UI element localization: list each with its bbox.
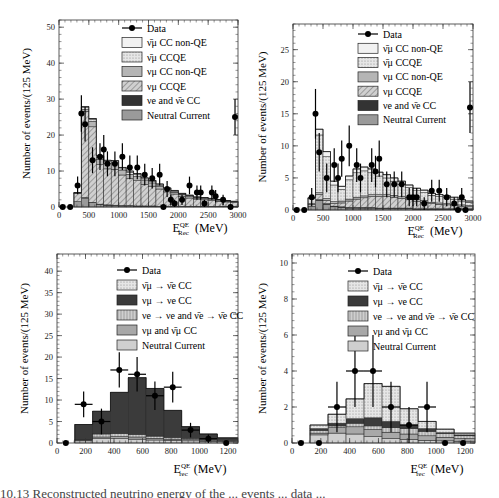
y-tick-label: 15 bbox=[45, 374, 54, 384]
x-axis-label: EQErec (MeV) bbox=[174, 462, 227, 478]
y-tick-label: 10 bbox=[45, 395, 54, 405]
legend-label: Neutral Current bbox=[383, 114, 446, 125]
data-point bbox=[451, 201, 457, 207]
x-tick-label: 200 bbox=[314, 446, 327, 456]
data-point bbox=[220, 197, 226, 203]
data-point bbox=[152, 393, 158, 399]
y-tick-label: 20 bbox=[45, 352, 54, 362]
x-tick-label: 800 bbox=[165, 446, 178, 456]
data-point bbox=[334, 404, 340, 410]
data-point bbox=[316, 149, 322, 155]
data-point bbox=[346, 143, 352, 149]
data-point bbox=[324, 175, 330, 181]
data-point bbox=[127, 164, 133, 170]
data-point bbox=[442, 440, 448, 446]
x-tick-label: 500 bbox=[317, 213, 330, 223]
x-tick-label: 2000 bbox=[405, 213, 422, 223]
panel-top-right: 0500100015002000250030000510152025Dataν̄… bbox=[250, 0, 499, 245]
data-point bbox=[358, 175, 364, 181]
legend: Dataν̄μ CC non-QEν̄μ CCQEνμ CC non-QEνμ … bbox=[358, 29, 446, 126]
x-tick-label: 1000 bbox=[345, 213, 362, 223]
legend-label: νμ CCQE bbox=[147, 81, 186, 92]
x-axis-label: EQErec (MeV) bbox=[411, 462, 464, 478]
data-point bbox=[352, 368, 358, 374]
data-point bbox=[467, 104, 473, 110]
legend-label: Neutral Current bbox=[142, 340, 205, 351]
y-tick-label: 10 bbox=[280, 258, 289, 268]
data-point bbox=[63, 440, 69, 446]
data-point bbox=[172, 200, 178, 206]
data-point bbox=[369, 162, 375, 168]
data-point bbox=[339, 156, 345, 162]
x-tick-label: 2000 bbox=[170, 210, 187, 220]
legend-label: ν̄μ CCQE bbox=[383, 57, 422, 68]
y-tick-label: 20 bbox=[47, 130, 56, 140]
data-point bbox=[78, 111, 84, 117]
legend-swatch bbox=[358, 58, 378, 68]
x-tick-label: 1000 bbox=[428, 446, 445, 456]
data-point bbox=[301, 207, 307, 213]
y-tick-label: 30 bbox=[47, 94, 56, 104]
data-point bbox=[376, 156, 382, 162]
data-point bbox=[463, 207, 469, 213]
x-tick-label: 2500 bbox=[200, 210, 217, 220]
data-point bbox=[232, 114, 238, 120]
legend-label: νμ → νe CC bbox=[142, 295, 192, 306]
data-point bbox=[82, 121, 88, 127]
legend-label: Data bbox=[142, 265, 161, 276]
y-tick-label: 0 bbox=[285, 205, 289, 215]
data-point bbox=[399, 181, 405, 187]
legend-swatch bbox=[117, 325, 137, 335]
legend-swatch bbox=[348, 296, 368, 306]
data-point bbox=[335, 175, 341, 181]
y-tick-label: 40 bbox=[47, 58, 56, 68]
data-point bbox=[198, 190, 204, 196]
legend-label: ν̄μ → ν̄e CC bbox=[142, 280, 192, 291]
x-tick-label: 0 bbox=[290, 446, 294, 456]
y-axis-label: Number of events/(125 MeV) bbox=[256, 51, 269, 182]
legend-label: νe and ν̄e CC bbox=[383, 100, 437, 111]
legend-swatch bbox=[122, 81, 142, 91]
y-tick-label: 10 bbox=[47, 166, 56, 176]
x-tick-label: 1200 bbox=[220, 446, 237, 456]
data-point bbox=[60, 204, 66, 210]
panel-bottom-left: 0200400600800100012000510152025303540Dat… bbox=[0, 245, 250, 485]
figure-caption: 10.13 Reconstructed neutrino energy of t… bbox=[0, 486, 499, 498]
x-tick-label: 2500 bbox=[435, 213, 452, 223]
data-point bbox=[97, 154, 103, 160]
data-point bbox=[388, 404, 394, 410]
data-point bbox=[424, 404, 430, 410]
x-tick-label: 3000 bbox=[230, 210, 247, 220]
data-point bbox=[459, 194, 465, 200]
data-point bbox=[384, 181, 390, 187]
x-tick-label: 600 bbox=[136, 446, 149, 456]
data-point bbox=[223, 440, 229, 446]
legend-label: νμ CC non-QE bbox=[383, 71, 443, 82]
y-tick-label: 15 bbox=[281, 109, 290, 119]
y-axis-label: Number of events/(125 MeV) bbox=[256, 283, 269, 414]
data-point bbox=[67, 204, 73, 210]
legend-label: Data bbox=[373, 266, 392, 277]
legend-swatch bbox=[122, 67, 142, 77]
x-tick-label: 400 bbox=[343, 446, 356, 456]
data-point bbox=[164, 186, 170, 192]
legend-swatch bbox=[358, 43, 378, 53]
x-tick-label: 1000 bbox=[191, 446, 208, 456]
data-point bbox=[90, 157, 96, 163]
data-point bbox=[201, 200, 207, 206]
y-tick-label: 4 bbox=[284, 366, 289, 376]
x-tick-label: 500 bbox=[82, 210, 95, 220]
x-tick-label: 400 bbox=[108, 446, 121, 456]
data-point bbox=[444, 194, 450, 200]
y-axis-label: Number of events/(125 MeV) bbox=[18, 283, 31, 414]
x-tick-label: 1200 bbox=[456, 446, 473, 456]
x-tick-label: 0 bbox=[291, 213, 295, 223]
data-point bbox=[298, 440, 304, 446]
data-point bbox=[98, 419, 104, 425]
legend-swatch bbox=[122, 96, 142, 106]
data-point bbox=[373, 169, 379, 175]
data-point bbox=[460, 440, 466, 446]
data-point bbox=[119, 154, 125, 160]
legend-label: Data bbox=[147, 23, 166, 34]
legend-label: νe → νe and ν̄e → ν̄e CC bbox=[373, 311, 474, 322]
